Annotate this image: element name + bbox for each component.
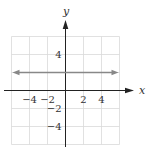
axes [4,20,134,147]
x-axis-label: x [139,84,146,97]
line-arrow-right-icon [112,70,119,76]
y-axis-label: y [62,5,70,18]
y-axis-arrow-icon [63,20,69,29]
line-arrow-left-icon [13,70,20,76]
x-tick-label: 4 [98,94,104,105]
x-tick-label: 2 [80,94,86,105]
y-tick-label: −2 [47,103,62,114]
graph: −4−2244−2−4 x y [0,0,152,151]
y-tick-label: 4 [55,49,61,60]
y-tick-label: −4 [47,121,62,132]
x-tick-label: −4 [22,94,37,105]
x-axis-arrow-icon [125,88,134,94]
